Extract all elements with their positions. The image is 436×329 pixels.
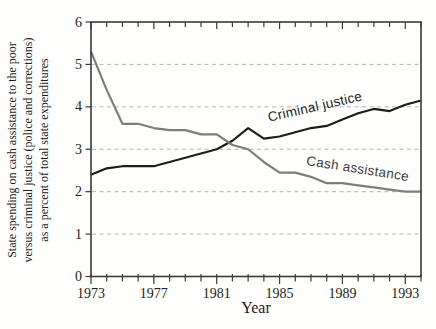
curve-labels: Criminal justiceCash assistance — [266, 88, 410, 184]
x-tick-label: 1989 — [328, 286, 356, 301]
y-axis-title-line-3: as a percent of total state expenditures — [37, 58, 51, 242]
y-tick-label: 5 — [75, 57, 82, 72]
y-tick-label: 4 — [75, 99, 82, 114]
y-axis-title: State spending on cash assistance to the… — [5, 38, 51, 263]
y-tick-labels: 0123456 — [75, 15, 82, 285]
cash-assistance-label: Cash assistance — [305, 153, 410, 184]
y-axis-title-line-1: State spending on cash assistance to the… — [5, 42, 19, 258]
y-axis-title-line-2: versus criminal justice (police and corr… — [21, 38, 35, 263]
gridlines — [92, 64, 420, 234]
y-tick-label: 3 — [75, 142, 82, 157]
x-tick-label: 1977 — [140, 286, 168, 301]
line-chart: 197319771981198519891993 0123456 Crimina… — [0, 0, 436, 329]
x-axis-title: Year — [241, 299, 271, 316]
chart-figure: 197319771981198519891993 0123456 Crimina… — [0, 0, 436, 329]
x-tick-label: 1981 — [203, 286, 231, 301]
y-tick-label: 2 — [75, 184, 82, 199]
x-tick-label: 1993 — [391, 286, 419, 301]
y-tick-label: 1 — [75, 227, 82, 242]
y-tick-label: 6 — [75, 15, 82, 30]
x-tick-label: 1973 — [77, 286, 105, 301]
y-tick-label: 0 — [75, 269, 82, 284]
